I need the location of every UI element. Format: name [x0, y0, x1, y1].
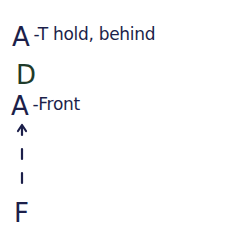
- note-hold-behind: -T hold, behind: [34, 24, 156, 44]
- line-a-front: A-Front: [11, 91, 80, 121]
- letter-a-top: A: [12, 22, 30, 52]
- note-front: -Front: [33, 94, 80, 114]
- line-a-hold-behind: A-T hold, behind: [12, 22, 155, 52]
- letter-a-front: A: [11, 91, 29, 121]
- dashed-up-arrow-icon: [15, 121, 29, 191]
- letter-f: F: [14, 198, 29, 228]
- letter-d: D: [16, 60, 36, 90]
